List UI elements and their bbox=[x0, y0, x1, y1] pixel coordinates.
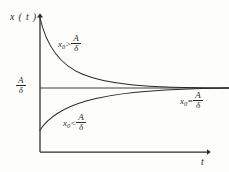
annotation-lower-denominator: δ bbox=[76, 123, 86, 132]
annotation-lower-fraction: A δ bbox=[76, 113, 86, 133]
annotation-lower-curve: x0< A δ bbox=[63, 113, 86, 133]
x-axis-label: t bbox=[201, 157, 204, 167]
y-tick-label-a-over-delta: A δ bbox=[16, 76, 26, 96]
fraction-a-over-delta: A δ bbox=[16, 76, 26, 96]
annotation-upper-denominator: δ bbox=[71, 44, 81, 53]
annotation-upper-fraction: A δ bbox=[71, 34, 81, 54]
annotation-upper-curve: x0> A δ bbox=[58, 34, 81, 54]
fraction-denominator: δ bbox=[16, 86, 26, 95]
annotation-right-fraction: A δ bbox=[193, 91, 203, 111]
annotation-right-denominator: δ bbox=[193, 101, 203, 110]
plot-svg bbox=[0, 0, 229, 172]
annotation-equilibrium: x0= A δ bbox=[180, 91, 203, 111]
figure-container: x ( t ) t A δ x0> A δ x0< A δ x0= A δ bbox=[0, 0, 229, 172]
y-axis-label: x ( t ) bbox=[10, 12, 37, 22]
